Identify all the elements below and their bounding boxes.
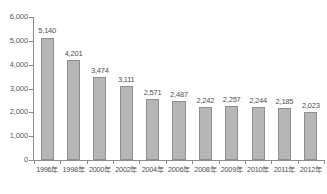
bar — [67, 60, 80, 160]
x-axis-tick — [324, 160, 325, 164]
bar — [225, 106, 238, 160]
y-axis-label: 5,000 — [10, 37, 28, 45]
bar — [278, 108, 291, 160]
x-axis-tick — [245, 160, 246, 164]
bar — [172, 101, 185, 160]
bar — [41, 38, 54, 161]
y-axis-label: 2,000 — [10, 108, 28, 116]
bar — [304, 112, 317, 160]
bar — [252, 107, 265, 160]
bar — [199, 107, 212, 160]
bar-value-label: 4,201 — [57, 50, 89, 58]
y-axis-label: 0 — [24, 156, 28, 164]
bar-value-label: 3,474 — [84, 67, 116, 75]
y-axis-label: 3,000 — [10, 85, 28, 93]
x-axis-tick — [60, 160, 61, 164]
x-axis-tick — [113, 160, 114, 164]
x-axis-label: 2012年 — [296, 165, 326, 174]
x-axis-tick — [298, 160, 299, 164]
plot-area: 5,1404,2013,4743,1112,5712,4872,2422,257… — [34, 17, 324, 160]
x-axis-tick — [192, 160, 193, 164]
x-axis-tick — [219, 160, 220, 164]
bar — [93, 77, 106, 160]
y-axis-label: 4,000 — [10, 61, 28, 69]
bar — [120, 86, 133, 160]
bar-value-label: 3,111 — [110, 76, 142, 84]
bar — [146, 99, 159, 160]
bar-value-label: 2,023 — [295, 102, 327, 110]
x-axis-tick — [139, 160, 140, 164]
y-axis-label: 6,000 — [10, 13, 28, 21]
bar-chart: 01,0002,0003,0004,0005,0006,000 5,1404,2… — [0, 0, 327, 194]
x-axis-tick — [34, 160, 35, 164]
bar-value-label: 5,140 — [31, 27, 63, 35]
x-axis-tick — [271, 160, 272, 164]
y-axis-label: 1,000 — [10, 132, 28, 140]
x-axis-tick — [87, 160, 88, 164]
x-axis-line — [33, 160, 324, 161]
x-axis-tick — [166, 160, 167, 164]
